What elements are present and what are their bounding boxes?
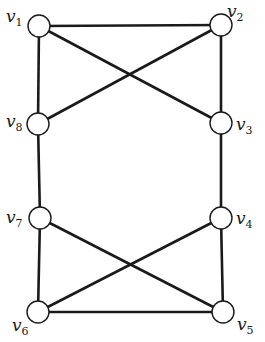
edge-v4-v5 xyxy=(221,218,223,312)
graph-canvas: v1v2v3v4v5v6v7v8 xyxy=(0,0,265,342)
label-v1: v1 xyxy=(6,6,23,29)
label-v2: v2 xyxy=(227,1,244,24)
graph-diagram: v1v2v3v4v5v6v7v8 xyxy=(0,0,265,342)
node-v8 xyxy=(27,113,49,135)
node-v5 xyxy=(212,301,234,323)
edge-v1-v8 xyxy=(38,26,39,124)
label-v8: v8 xyxy=(6,111,23,134)
label-v7: v7 xyxy=(6,207,23,230)
label-v3: v3 xyxy=(236,114,253,137)
label-v4: v4 xyxy=(236,208,253,231)
edge-v7-v6 xyxy=(38,218,40,312)
labels-layer: v1v2v3v4v5v6v7v8 xyxy=(6,1,254,338)
label-v5: v5 xyxy=(237,314,254,337)
nodes-layer xyxy=(27,14,234,323)
node-v4 xyxy=(210,207,232,229)
edge-v1-v2 xyxy=(39,25,221,26)
node-v1 xyxy=(28,15,50,37)
node-v7 xyxy=(29,207,51,229)
label-v6: v6 xyxy=(12,315,29,338)
node-v6 xyxy=(27,301,49,323)
edge-v8-v7 xyxy=(38,124,40,218)
edges-layer xyxy=(38,25,223,312)
node-v3 xyxy=(210,112,232,134)
